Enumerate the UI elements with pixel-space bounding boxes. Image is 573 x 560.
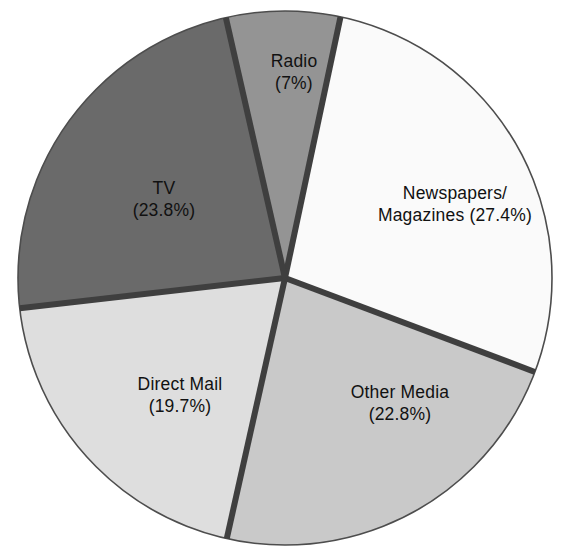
pie-chart: Newspapers/ Magazines (27.4%) Other Medi… [0,0,573,560]
pie-chart-graphic [0,0,573,560]
